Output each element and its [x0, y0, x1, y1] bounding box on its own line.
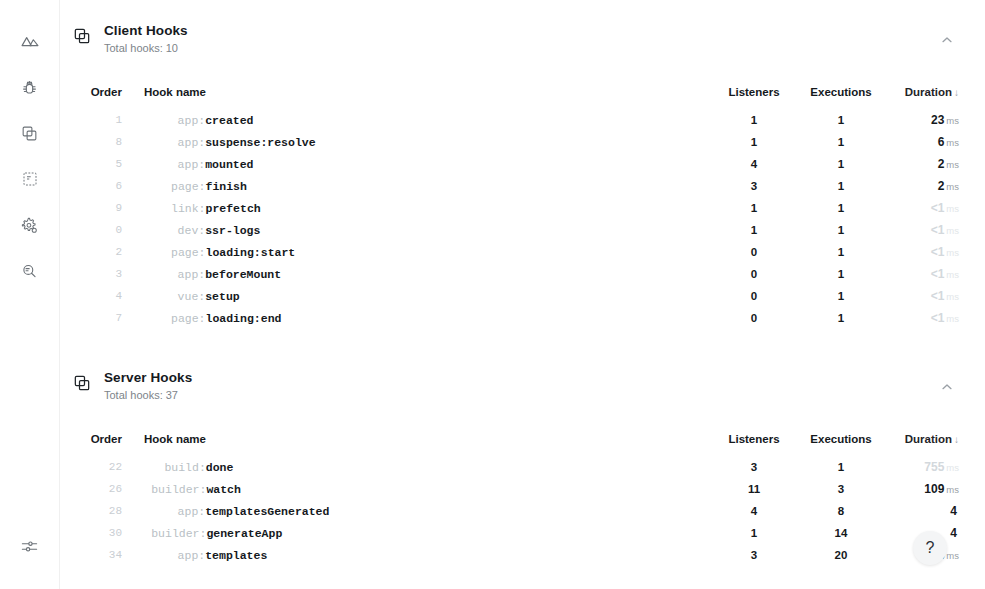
- cell-listeners: 3: [713, 549, 795, 561]
- table-row[interactable]: 8app:suspense:resolve116ms: [60, 131, 985, 153]
- cell-executions: 1: [795, 158, 887, 170]
- hook-name: ssr-logs: [205, 224, 260, 237]
- col-hook-name[interactable]: Hook name: [134, 433, 713, 445]
- cell-hook-name: link:prefetch: [134, 202, 713, 215]
- hook-name: beforeMount: [205, 268, 281, 281]
- duration-unit: ms: [946, 484, 959, 495]
- nuxt-logo-icon: [20, 31, 40, 51]
- cell-order: 6: [72, 180, 134, 192]
- cell-executions: 1: [795, 246, 887, 258]
- col-duration-label: Duration: [905, 433, 952, 445]
- table-row[interactable]: 26builder:watch113109ms: [60, 478, 985, 500]
- cell-duration: 109ms: [887, 482, 959, 496]
- col-executions[interactable]: Executions: [795, 433, 887, 445]
- chevron-up-icon[interactable]: [939, 379, 955, 395]
- table-row[interactable]: 7page:loading:end01<1ms: [60, 307, 985, 329]
- duration-unit: ms: [946, 462, 959, 473]
- table-row[interactable]: 30builder:generateApp1144: [60, 522, 985, 544]
- table-header-row: Order Hook name Listeners Executions Dur…: [60, 80, 985, 104]
- col-executions[interactable]: Executions: [795, 86, 887, 98]
- sidebar-item-pages[interactable]: [13, 162, 47, 196]
- table-row[interactable]: 34app:templates3208ms: [60, 544, 985, 566]
- cell-hook-name: page:loading:start: [134, 246, 713, 259]
- hook-name: prefetch: [206, 202, 261, 215]
- hook-prefix: build:: [164, 461, 205, 474]
- cell-order: 0: [72, 224, 134, 236]
- help-button[interactable]: ?: [913, 531, 947, 565]
- table-row[interactable]: 9link:prefetch11<1ms: [60, 197, 985, 219]
- cell-hook-name: page:loading:end: [134, 312, 713, 325]
- cell-order: 30: [72, 527, 134, 539]
- col-duration[interactable]: Duration↓: [887, 86, 959, 98]
- cell-hook-name: page:finish: [134, 180, 713, 193]
- cell-hook-name: builder:watch: [134, 483, 713, 496]
- sidebar-item-settings[interactable]: [13, 208, 47, 242]
- table-row[interactable]: 4vue:setup01<1ms: [60, 285, 985, 307]
- cell-hook-name: app:mounted: [134, 158, 713, 171]
- table-row[interactable]: 0dev:ssr-logs11<1ms: [60, 219, 985, 241]
- hook-name: loading:start: [206, 246, 296, 259]
- cell-order: 5: [72, 158, 134, 170]
- cell-executions: 20: [795, 549, 887, 561]
- table-row[interactable]: 3app:beforeMount01<1ms: [60, 263, 985, 285]
- sidebar-item-debug[interactable]: [13, 70, 47, 104]
- section-header-client-hooks[interactable]: Client Hooks Total hooks: 10: [60, 22, 985, 66]
- cell-order: 26: [72, 483, 134, 495]
- section-gap: [60, 329, 985, 369]
- hook-prefix: app:: [178, 136, 206, 149]
- cell-order: 34: [72, 549, 134, 561]
- cell-order: 22: [72, 461, 134, 473]
- table-row[interactable]: 6page:finish312ms: [60, 175, 985, 197]
- table-row[interactable]: 28app:templatesGenerated484: [60, 500, 985, 522]
- hook-prefix: builder:: [151, 483, 206, 496]
- duration-value: 2: [938, 157, 945, 171]
- cell-listeners: 1: [713, 202, 795, 214]
- hook-prefix: app:: [178, 268, 206, 281]
- hook-name: created: [205, 114, 253, 127]
- table-row[interactable]: 5app:mounted412ms: [60, 153, 985, 175]
- cell-listeners: 4: [713, 505, 795, 517]
- duration-unit: ms: [946, 137, 959, 148]
- col-duration[interactable]: Duration↓: [887, 433, 959, 445]
- section-header-server-hooks[interactable]: Server Hooks Total hooks: 37: [60, 369, 985, 413]
- cell-hook-name: build:done: [134, 461, 713, 474]
- hook-prefix: builder:: [151, 527, 206, 540]
- cell-hook-name: builder:generateApp: [134, 527, 713, 540]
- duration-value: <1: [931, 223, 945, 237]
- duration-value: <1: [931, 289, 945, 303]
- cell-duration: 2ms: [887, 157, 959, 171]
- hook-prefix: page:: [171, 246, 206, 259]
- cell-executions: 1: [795, 268, 887, 280]
- cell-order: 9: [72, 202, 134, 214]
- sidebar-item-overview[interactable]: [13, 24, 47, 58]
- duration-unit: ms: [946, 115, 959, 126]
- table-row[interactable]: 2page:loading:start01<1ms: [60, 241, 985, 263]
- hook-name: mounted: [205, 158, 253, 171]
- col-order[interactable]: Order: [72, 86, 134, 98]
- cell-executions: 1: [795, 114, 887, 126]
- table-row[interactable]: 1app:created1123ms: [60, 109, 985, 131]
- cell-listeners: 0: [713, 290, 795, 302]
- sidebar-item-hooks[interactable]: [13, 116, 47, 150]
- cell-executions: 1: [795, 180, 887, 192]
- chevron-up-icon[interactable]: [939, 32, 955, 48]
- duration-value: <1: [931, 201, 945, 215]
- hook-prefix: vue:: [178, 290, 206, 303]
- table-row[interactable]: 22build:done31755ms: [60, 456, 985, 478]
- search-icon: [20, 262, 39, 281]
- col-listeners[interactable]: Listeners: [713, 433, 795, 445]
- col-listeners[interactable]: Listeners: [713, 86, 795, 98]
- cell-executions: 1: [795, 136, 887, 148]
- section-title: Client Hooks: [104, 22, 188, 39]
- duration-unit: ms: [946, 225, 959, 236]
- cell-listeners: 0: [713, 268, 795, 280]
- duration-value: 23: [931, 113, 944, 127]
- sidebar-item-preferences[interactable]: [13, 529, 47, 563]
- col-hook-name[interactable]: Hook name: [134, 86, 713, 98]
- section-title: Server Hooks: [104, 369, 192, 386]
- hook-prefix: page:: [171, 180, 206, 193]
- sidebar-item-search[interactable]: [13, 254, 47, 288]
- cell-executions: 1: [795, 290, 887, 302]
- cell-listeners: 1: [713, 527, 795, 539]
- col-order[interactable]: Order: [72, 433, 134, 445]
